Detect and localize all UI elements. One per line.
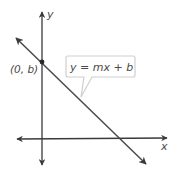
y-axis-label: y: [46, 8, 54, 21]
x-axis-label: x: [160, 140, 168, 153]
x-axis: [17, 138, 167, 139]
slope-intercept-diagram: y = mx + b (0, b) y x: [0, 0, 181, 185]
point-label: (0, b): [10, 63, 38, 75]
equation-label: y = mx + b: [69, 61, 133, 74]
y-intercept-point: [40, 60, 45, 65]
